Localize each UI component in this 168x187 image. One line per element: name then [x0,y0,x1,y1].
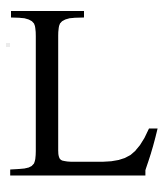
glyph-canvas: L [0,0,168,187]
letter-l-glyph [0,0,168,187]
scan-artifact-speck [6,43,10,47]
